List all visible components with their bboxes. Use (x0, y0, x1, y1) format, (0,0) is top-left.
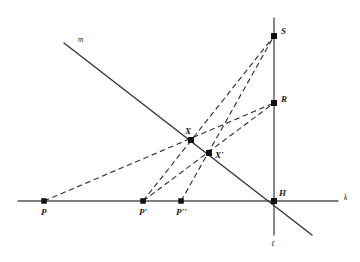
dashed-ray-pdprime-xprime-s (181, 36, 274, 201)
point-label-r: R (280, 94, 287, 104)
line-label-m: m (78, 35, 84, 44)
dashed-ray-p-x-r (44, 103, 274, 201)
line-label-k: k (344, 193, 348, 202)
point-label-x: X (184, 126, 192, 136)
point-dot-p (41, 198, 47, 204)
point-label-p: P (41, 207, 47, 217)
point-label-h: H (278, 188, 287, 198)
point-label-s: S (281, 26, 286, 36)
point-dot-xprime (206, 150, 212, 156)
geometry-canvas: P P' P'' H X X' R S k ℓ m (0, 0, 360, 262)
line-label-l: ℓ (271, 239, 275, 248)
point-dot-r (271, 100, 277, 106)
point-dot-pprime (140, 198, 146, 204)
point-label-pprime: P' (139, 207, 147, 217)
point-dot-x (188, 137, 194, 143)
point-dot-h (271, 198, 277, 204)
point-label-xprime: X' (214, 150, 224, 160)
point-dot-s (271, 33, 277, 39)
point-dot-pdprime (178, 198, 184, 204)
point-label-pdprime: P'' (176, 207, 187, 217)
geometry-diagram: P P' P'' H X X' R S k ℓ m (0, 0, 360, 262)
